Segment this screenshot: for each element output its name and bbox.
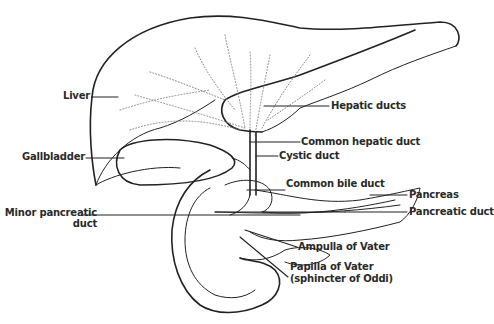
pancreas-shape: [215, 188, 420, 265]
label-cystic-duct: Cystic duct: [279, 150, 339, 161]
label-common-bile-duct: Common bile duct: [286, 178, 385, 189]
label-ampulla-of-vater: Ampulla of Vater: [298, 241, 389, 252]
hepatic-duct-branches: [120, 35, 325, 135]
label-minor-pancreatic-duct-line2: duct: [0, 218, 97, 229]
label-liver: Liver: [20, 90, 90, 101]
label-hepatic-ducts: Hepatic ducts: [331, 100, 406, 111]
label-papilla-of-vater-line1: Papilla of Vater: [290, 261, 373, 272]
bile-ducts: [230, 130, 256, 215]
label-pancreatic-duct: Pancreatic duct: [409, 206, 494, 217]
label-minor-pancreatic-duct-line1: Minor pancreatic: [0, 207, 97, 218]
label-common-hepatic-duct: Common hepatic duct: [301, 136, 420, 147]
label-gallbladder: Gallbladder: [10, 151, 85, 162]
label-pancreas: Pancreas: [409, 189, 459, 200]
label-papilla-of-vater-line2: (sphincter of Oddi): [290, 273, 393, 284]
gallbladder-shape: [117, 140, 235, 185]
